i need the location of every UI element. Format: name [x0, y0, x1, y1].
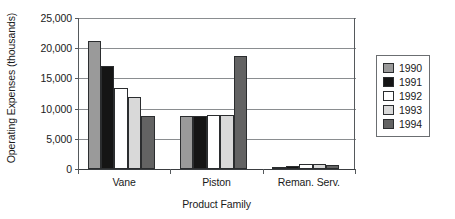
- bar: [193, 116, 206, 169]
- legend-item: 1990: [383, 61, 422, 75]
- legend-item-label: 1991: [399, 76, 422, 88]
- legend: 19901991199219931994: [376, 55, 430, 137]
- bar: [128, 97, 141, 169]
- legend-swatch-icon: [383, 77, 394, 87]
- bar: [88, 41, 101, 169]
- legend-swatch-icon: [383, 63, 394, 73]
- legend-swatch-icon: [383, 119, 394, 129]
- bar-chart-figure: Operating Expenses (thousands) 05,00010,…: [0, 0, 455, 219]
- legend-item-label: 1990: [399, 62, 422, 74]
- legend-item-label: 1993: [399, 104, 422, 116]
- bar: [207, 115, 220, 169]
- y-axis-tick-labels: 05,00010,00015,00020,00025,000: [18, 12, 72, 175]
- x-axis-tick-mark: [355, 169, 356, 174]
- bar: [180, 116, 193, 169]
- legend-item: 1994: [383, 117, 422, 131]
- y-axis-tick-label: 15,000: [18, 73, 72, 84]
- y-axis-tick-label: 5,000: [18, 133, 72, 144]
- y-axis-tick-label: 10,000: [18, 103, 72, 114]
- bar: [101, 66, 114, 169]
- x-axis-title: Product Family: [78, 198, 355, 210]
- bar: [234, 56, 247, 169]
- x-axis-tick-mark: [263, 169, 264, 174]
- x-axis-tick-mark: [78, 169, 79, 174]
- y-axis-tick-label: 0: [18, 164, 72, 175]
- legend-item-label: 1994: [399, 118, 422, 130]
- legend-item: 1992: [383, 89, 422, 103]
- legend-swatch-icon: [383, 91, 394, 101]
- legend-swatch-icon: [383, 105, 394, 115]
- y-axis-title-text: Operating Expenses (thousands): [5, 12, 17, 163]
- x-axis-tick-label: Reman. Serv.: [263, 176, 355, 188]
- y-axis-tick-label: 20,000: [18, 43, 72, 54]
- x-axis-baseline: [78, 169, 355, 170]
- y-axis-tick-label: 25,000: [18, 13, 72, 24]
- legend-item: 1993: [383, 103, 422, 117]
- bar: [114, 88, 127, 169]
- x-axis-tick-label: Piston: [170, 176, 262, 188]
- bars-layer: [78, 18, 355, 169]
- x-axis-tick-mark: [170, 169, 171, 174]
- legend-item: 1991: [383, 75, 422, 89]
- legend-item-label: 1992: [399, 90, 422, 102]
- x-axis-tick-label: Vane: [78, 176, 170, 188]
- bar: [220, 115, 233, 169]
- bar: [141, 116, 154, 169]
